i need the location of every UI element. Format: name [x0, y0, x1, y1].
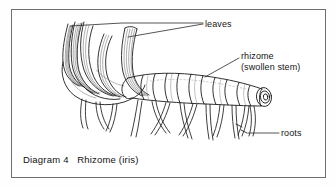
leaf-fan: [62, 22, 149, 105]
figure-caption: Diagram 4 Rhizome (iris): [23, 154, 139, 165]
label-roots: roots: [281, 128, 302, 139]
label-rhizome-line1: rhizome: [241, 51, 274, 61]
label-rhizome: rhizome (swollen stem): [241, 51, 300, 72]
cut-cross-section: [255, 86, 273, 107]
label-leaves: leaves: [205, 19, 232, 30]
leader-leaves-lower: [128, 24, 203, 37]
leaf-5-outline: [122, 28, 142, 96]
label-rhizome-line2: (swollen stem): [241, 62, 300, 73]
figure-root: leaves rhizome (swollen stem) roots Diag…: [0, 0, 336, 187]
leader-leaves-upper: [70, 23, 203, 26]
rhizome-body: [122, 73, 273, 107]
leader-rhizome: [205, 58, 239, 77]
leaf-5-tip: [125, 27, 137, 29]
